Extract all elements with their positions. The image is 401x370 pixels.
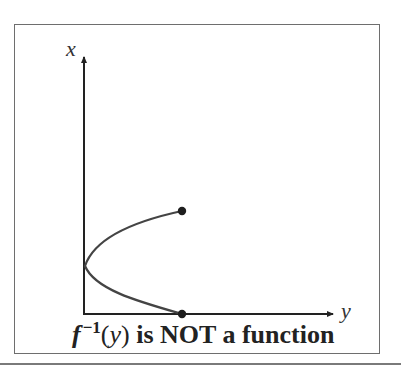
horizontal-axis-label: y bbox=[341, 300, 351, 322]
vertical-axis-label: x bbox=[66, 38, 76, 60]
parabola-curve bbox=[85, 211, 182, 314]
diagram-caption: f−1(y) is NOT a function bbox=[72, 322, 334, 348]
caption-variable: y bbox=[110, 320, 122, 349]
caption-close-paren: ) bbox=[121, 320, 130, 349]
caption-statement: is NOT a function bbox=[130, 320, 335, 349]
caption-function-symbol: f bbox=[72, 320, 81, 349]
caption-open-paren: ( bbox=[101, 320, 110, 349]
top-endpoint-dot bbox=[178, 207, 186, 215]
bottom-separator-line bbox=[0, 363, 401, 365]
bottom-endpoint-dot bbox=[178, 310, 186, 318]
caption-inverse-superscript: −1 bbox=[83, 318, 101, 337]
